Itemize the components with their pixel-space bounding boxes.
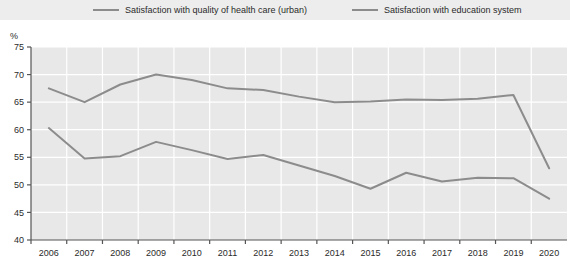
x-axis-tick-label: 2020 [539,248,559,258]
x-axis-tick-label: 2011 [218,248,237,258]
y-axis-tick-label: 55 [14,152,24,162]
x-axis-tick-label: 2018 [468,248,488,258]
x-axis-tick-label: 2006 [39,248,59,258]
x-axis-tick-label: 2008 [110,248,130,258]
x-axis-tick-label: 2009 [146,248,166,258]
x-axis-tick-labels: 2006200720082009201020112012201320142015… [39,248,559,258]
x-axis-tick-label: 2013 [289,248,309,258]
x-axis-tick-label: 2010 [182,248,202,258]
x-axis-tick-label: 2014 [325,248,345,258]
x-axis-tick-label: 2015 [360,248,380,258]
x-axis-ticks [31,240,531,244]
chart-plot-area: 4045505560657075 20062007200820092010201… [0,0,570,264]
y-axis-tick-label: 50 [14,180,24,190]
plot-background [31,47,567,240]
x-axis-tick-label: 2007 [75,248,95,258]
y-axis-tick-label: 45 [14,208,24,218]
y-axis-tick-label: 65 [14,97,24,107]
y-axis-tick-label: 40 [14,235,24,245]
y-axis-tick-label: 70 [14,70,24,80]
line-chart-svg: 4045505560657075 20062007200820092010201… [0,0,570,264]
y-axis-tick-label: 75 [14,42,24,52]
x-axis-tick-label: 2017 [432,248,452,258]
y-axis-tick-labels: 4045505560657075 [14,42,24,245]
x-axis-tick-label: 2016 [396,248,416,258]
y-axis-tick-label: 60 [14,125,24,135]
x-axis-tick-label: 2012 [253,248,273,258]
x-axis-tick-label: 2019 [503,248,523,258]
